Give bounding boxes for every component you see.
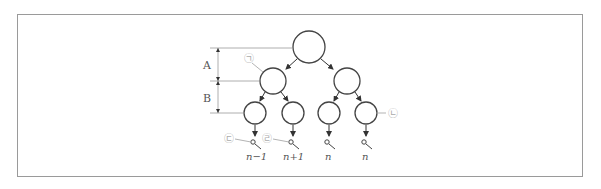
dimension-label-a: A: [202, 59, 212, 72]
marker-2: ㉡: [388, 108, 398, 119]
sperm-icon: [362, 140, 372, 149]
marker-3: ㉢: [224, 133, 234, 144]
secondary-cell-left: [260, 68, 286, 94]
dimension-label-b: B: [203, 92, 211, 105]
gamete-label-4: n: [362, 151, 368, 162]
marker-1: ㉠: [244, 53, 254, 64]
sperm-icon: [325, 140, 335, 149]
cell-level3-2: [282, 102, 304, 124]
marker-4: ㉣: [262, 133, 272, 144]
cell-level3-4: [355, 102, 377, 124]
cell-level3-1: [244, 102, 266, 124]
parent-cell: [293, 31, 325, 63]
gamete-label-1: n−1: [246, 151, 267, 162]
gamete-label-2: n+1: [283, 151, 304, 162]
gamete-label-3: n: [325, 151, 331, 162]
meiosis-diagram: A B ㉠ ㉡ ㉢ ㉣ n−1: [0, 0, 601, 189]
sperm-icon: [251, 140, 261, 149]
sperm-icon: [289, 140, 299, 149]
secondary-cell-right: [334, 68, 360, 94]
cell-level3-3: [318, 102, 340, 124]
